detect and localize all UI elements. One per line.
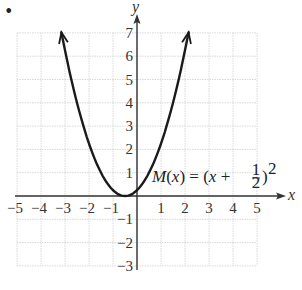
x-tick-label: −2 <box>79 200 95 216</box>
y-tick-label: −2 <box>117 235 133 251</box>
y-tick-label: 4 <box>126 95 134 111</box>
y-tick-label: 1 <box>126 165 134 181</box>
y-tick-label: 5 <box>126 72 134 88</box>
y-tick-label: 2 <box>126 141 134 157</box>
x-tick-label: 1 <box>157 200 165 216</box>
fraction-denominator: 2 <box>252 173 261 192</box>
y-axis-label: y <box>130 0 140 16</box>
x-axis-label: x <box>287 186 295 203</box>
y-tick-label: 3 <box>126 118 134 134</box>
x-tick-label: −3 <box>55 200 71 216</box>
close-paren: ) <box>262 167 268 186</box>
x-tick-label: 2 <box>181 200 189 216</box>
function-label-main: M(x) = (x + <box>151 167 230 186</box>
x-tick-label: −5 <box>7 200 23 216</box>
x-tick-label: −4 <box>31 200 47 216</box>
y-tick-label: 7 <box>126 25 134 41</box>
exponent: 2 <box>268 159 277 178</box>
function-label: M(x) = (x + 1 2 ) 2 <box>151 159 277 192</box>
y-tick-label: −3 <box>117 258 133 274</box>
x-tick-label: 3 <box>205 200 213 216</box>
parabola-chart: −5−4−3−2−1123457654321−1−2−3 • x y M(x) … <box>0 0 302 290</box>
x-tick-label: 4 <box>229 200 237 216</box>
y-tick-label: 6 <box>126 48 134 64</box>
axes <box>15 14 286 270</box>
x-tick-label: 5 <box>253 200 261 216</box>
y-tick-label: −1 <box>117 211 133 227</box>
bullet: • <box>4 2 13 21</box>
